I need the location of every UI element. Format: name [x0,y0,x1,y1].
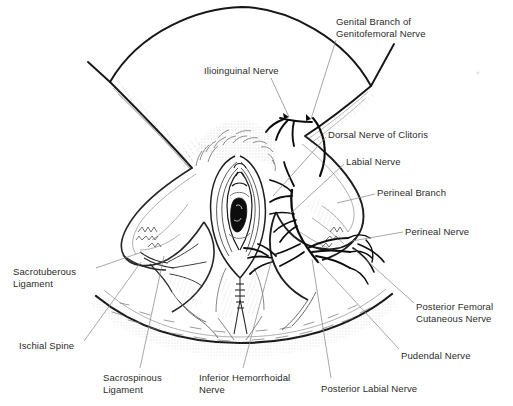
label-line-1: Posterior Femoral [416,301,493,312]
label-line-1: Labial Nerve [346,156,401,167]
label-dorsal-nerve-of-clitoris: Dorsal Nerve of Clitoris [328,129,428,141]
label-genital-branch-of-genitofemoral-nerve: Genital Branch ofGenitofemoral Nerve [336,16,426,39]
label-line-1: Inferior Hemorrhoidal [199,372,290,383]
left-thigh-inner-contours [133,174,196,254]
label-line-2: Cutaneous Nerve [416,313,491,324]
leader-dorsal-nerve-of-clitoris [273,137,326,196]
leader-genital-branch [311,40,336,119]
label-line-1: Perineal Branch [377,187,446,198]
dorsal-nerve-clitoris-branch [270,162,294,202]
label-perineal-branch: Perineal Branch [377,187,446,199]
leader-ilioinguinal [271,78,289,117]
label-sacrospinous-ligament: SacrospinousLigament [103,372,162,395]
posterior-femoral-cutaneous-path [353,244,384,272]
anatomical-figure: Genital Branch ofGenitofemoral Nerve Ili… [0,0,513,406]
leader-sacrotuberous [96,252,142,268]
label-posterior-labial-nerve: Posterior Labial Nerve [321,383,417,395]
perineum-shading [220,276,258,318]
label-line-2: Genitofemoral Nerve [336,28,426,39]
label-line-1: Genital Branch of [336,16,411,27]
label-line-1: Posterior Labial Nerve [321,383,417,394]
label-labial-nerve: Labial Nerve [346,156,401,168]
anatomy-line-drawing [0,0,513,406]
leader-perineal-branch [337,194,375,203]
right-thigh-lower-contour [282,292,316,330]
vaginal-introitus [231,198,247,232]
label-line-1: Sacrospinous [103,372,162,383]
inferior-hemorrhoidal-nerve-branch [244,244,276,274]
right-thigh-hatch [306,196,348,244]
label-perineal-nerve: Perineal Nerve [405,226,469,238]
label-line-1: Ilioinguinal Nerve [204,65,279,76]
label-pudendal-nerve: Pudendal Nerve [401,350,471,362]
label-line-2: Ligament [103,384,143,395]
label-sacrotuberous-ligament: SacrotuberousLigament [13,266,76,289]
label-ilioinguinal-nerve: Ilioinguinal Nerve [204,65,279,77]
label-line-1: Ischial Spine [19,340,74,351]
label-line-1: Perineal Nerve [405,226,469,237]
label-line-1: Dorsal Nerve of Clitoris [328,129,428,140]
left-thigh-mass [121,168,214,312]
leader-posterior-labial [312,259,331,378]
ischial-tuberosity-texture [136,227,161,247]
label-line-2: Ligament [13,278,53,289]
label-line-2: Nerve [199,384,225,395]
label-ischial-spine: Ischial Spine [19,340,74,352]
posterior-labial-nerve-branch [276,244,304,266]
label-inferior-hemorrhoidal-nerve: Inferior HemorrhoidalNerve [199,372,290,395]
label-line-1: Pudendal Nerve [401,350,471,361]
perineal-nerve-branch [308,238,350,268]
paper-speck [477,72,480,75]
label-line-1: Sacrotuberous [13,266,76,277]
perineal-body-and-anus [234,278,247,334]
leader-sacrospinous [140,256,164,368]
label-posterior-femoral-cutaneous-nerve: Posterior FemoralCutaneous Nerve [416,301,493,324]
